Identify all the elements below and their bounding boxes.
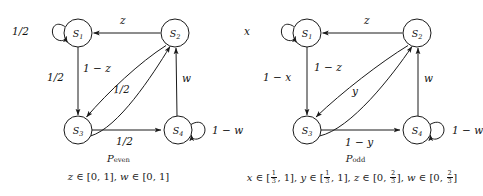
edge-label-s1-to-s3: 1/2 — [47, 72, 64, 83]
edge-s4-to-s2 — [176, 48, 177, 116]
edge-s3-to-s2 — [320, 47, 413, 137]
constraint-right-w: w — [407, 172, 416, 183]
edge-label-s3-to-s2: 1/2 — [113, 84, 130, 95]
edge-label-s1-self: x — [244, 26, 250, 37]
edge-label-s4-to-s2: w — [424, 73, 433, 84]
constraint-p-even: z ∈ [0, 1], w ∈ [0, 1] — [0, 172, 237, 182]
edge-label-s2-to-s3: 1 − z — [314, 62, 342, 73]
edge-label-s2-to-s1: z — [120, 15, 126, 26]
edge-label-s2-to-s1: z — [364, 15, 370, 26]
caption-p-even-sub: even — [114, 156, 130, 164]
edge-label-s3-to-s4: 1/2 — [116, 136, 133, 147]
edge-label-s4-to-s2: w — [182, 73, 191, 84]
frac-one-third-b: 13 — [324, 170, 330, 184]
caption-p-odd: Podd — [237, 154, 474, 164]
caption-p-odd-sub: odd — [352, 156, 365, 164]
edge-s3-to-s2 — [91, 47, 171, 137]
p-even-graph-svg: S1 S2 S3 S4 — [0, 0, 237, 196]
edge-label-s1-to-s3: 1 − x — [263, 72, 291, 83]
edge-s2-to-s3 — [316, 46, 408, 118]
constraint-left-wrange: ∈ [0, 1] — [132, 171, 169, 182]
caption-p-even: Peven — [0, 154, 237, 164]
edge-label-s3-to-s4: 1 − y — [345, 137, 373, 148]
frac-one-third-a: 13 — [271, 170, 277, 184]
constraint-left-zrange: ∈ [0, 1], — [76, 171, 117, 182]
edge-s4-self-loop — [430, 122, 444, 139]
frac-two-thirds-b: 23 — [447, 170, 453, 184]
edge-s4-self-loop — [191, 122, 205, 139]
constraint-left-w: w — [120, 171, 129, 182]
edge-label-s1-self: 1/2 — [12, 26, 29, 37]
edge-label-s3-to-s2: y — [352, 86, 358, 97]
constraint-p-odd: x ∈ [13, 1], y ∈ [13, 1], z ∈ [0, 23], w… — [230, 170, 474, 184]
edge-label-s2-to-s3: 1 − z — [83, 63, 111, 74]
edge-s2-to-s3 — [87, 46, 167, 118]
constraint-left-z: z — [68, 171, 73, 182]
p-odd-graph-svg: S1 S2 S3 S4 — [237, 0, 474, 196]
diagram-p-odd: S1 S2 S3 S4 x z 1 − x 1 − z y — [237, 0, 474, 196]
frac-two-thirds-a: 23 — [390, 170, 396, 184]
edge-label-s4-self: 1 − w — [452, 125, 483, 136]
caption-p-even-name: P — [107, 153, 114, 164]
diagram-p-even: S1 S2 S3 S4 — [0, 0, 237, 196]
